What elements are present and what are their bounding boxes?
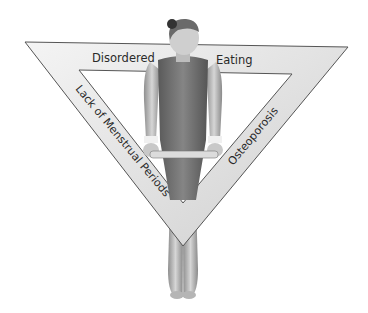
parallel-bar — [150, 151, 218, 158]
female-athlete-triad-figure: Disordered Eating Lack of Menstrual Peri… — [0, 0, 368, 313]
label-disordered: Disordered — [92, 51, 155, 65]
label-eating: Eating — [216, 53, 253, 67]
